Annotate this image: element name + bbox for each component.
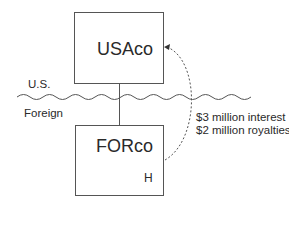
foreign-label: Foreign bbox=[24, 108, 63, 120]
forco-label: FORco bbox=[96, 137, 153, 155]
payment-flow-arrow bbox=[165, 47, 192, 160]
border-wave bbox=[17, 95, 251, 100]
usaco-label: USAco bbox=[97, 40, 153, 58]
flow-line-interest: $3 million interest bbox=[196, 111, 285, 124]
arrowhead-icon bbox=[164, 44, 170, 50]
flow-line-royalties: $2 million royalties bbox=[196, 124, 289, 137]
forco-marker: H bbox=[144, 172, 153, 184]
us-label: U.S. bbox=[28, 79, 50, 91]
